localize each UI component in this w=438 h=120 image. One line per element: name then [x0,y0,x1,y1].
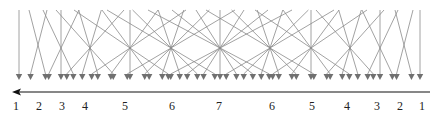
arrowhead-icon [393,74,399,80]
arrowhead-icon [184,74,190,80]
arrowhead-icon [58,74,64,80]
group-label: 1 [13,99,19,113]
group-label: 1 [419,99,425,113]
arrowhead-icon [276,74,282,80]
arrowhead-icon [159,74,165,80]
ray-group-1 [417,10,423,80]
ray-line [273,10,367,74]
ray-line [111,10,158,74]
arrowhead-icon [223,74,229,80]
arrowhead-icon [194,74,200,80]
group-label: 4 [82,99,88,113]
arrowhead-icon [289,74,295,80]
ray-group-3 [362,10,398,80]
arrowhead-icon [177,74,183,80]
group-label: 5 [122,99,128,113]
group-label: 2 [36,99,42,113]
group-label: 6 [269,99,275,113]
arrowhead-icon [346,74,352,80]
ray-line [49,10,79,74]
arrowhead-icon [355,74,361,80]
ray-group-4 [316,10,384,80]
ray-line [395,10,412,74]
ray-line [92,10,186,74]
ray-line [206,10,314,74]
ray-line [362,10,392,74]
direction-axis-arrow [12,89,430,96]
ray-line [31,10,48,74]
ray-line [43,10,73,74]
arrowhead-icon [233,74,239,80]
arrowhead-icon [70,74,76,80]
ray-line [196,10,236,74]
arrowhead-icon [217,74,223,80]
arrowhead-icon [339,74,345,80]
arrowhead-icon [16,74,22,80]
group-label: 3 [59,99,65,113]
ray-group-3 [43,10,79,80]
arrowhead-icon [408,74,414,80]
ray-line [127,10,235,74]
ray-line [226,10,334,74]
arrowhead-icon [88,74,94,80]
ray-line [29,10,46,74]
ray-group-2 [393,10,414,80]
arrowhead-icon [142,74,148,80]
ray-line [172,10,253,74]
arrowhead-icon [212,74,218,80]
group-label: 6 [169,99,175,113]
group-label: 4 [344,99,350,113]
arrowhead-icon [200,74,206,80]
arrowhead-icon [27,74,33,80]
arrowhead-icon [241,74,247,80]
arrowhead-icon [364,74,370,80]
arrowhead-icon [377,74,383,80]
group-label: 2 [397,99,403,113]
arrowhead-icon [250,74,256,80]
ray-group-1 [16,10,22,80]
ray-group-2 [27,10,48,80]
group-label: 7 [216,99,222,113]
ray-groups [16,10,423,80]
arrowhead-icon [79,74,85,80]
ray-line [107,10,215,74]
arrowhead-icon [370,74,376,80]
ray-line [171,10,292,74]
ray-line [283,10,330,74]
arrowhead-icon [64,74,70,80]
group-label: 3 [374,99,380,113]
arrowhead-icon [95,74,101,80]
ray-line [204,10,244,74]
arrowhead-icon [417,74,423,80]
ray-line [397,10,414,74]
ray-line [148,10,269,74]
group-label: 5 [309,99,315,113]
arrowhead-icon [258,74,264,80]
ray-line [368,10,398,74]
